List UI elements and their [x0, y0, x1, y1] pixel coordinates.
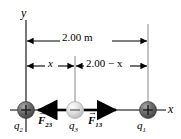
vector-arrow-icon-f23: →	[38, 108, 47, 117]
charge-label-q1-subscript: 1	[143, 126, 146, 133]
y-axis-label: y	[21, 7, 26, 19]
charge-sphere-q1	[140, 102, 157, 119]
force-label-f23: →F23	[38, 115, 52, 129]
charge-sphere-q2	[18, 102, 35, 119]
dimension-right-segment-label: 2.00 − x	[86, 58, 122, 69]
dimension-left-segment-label: x	[48, 58, 53, 69]
x-axis-label: x	[168, 103, 173, 115]
force-label-f13-subscript: 13	[95, 121, 102, 128]
charge-label-q2: q2	[14, 120, 23, 134]
charge-label-q1: q1	[137, 120, 146, 134]
charge-sphere-q3	[67, 102, 84, 119]
force-label-f23-subscript: 23	[45, 121, 52, 128]
dimension-total-label: 2.00 m	[62, 32, 93, 43]
physics-diagram: y x 2.00 m x 2.00 − x q2 q3 q1 →F23 →F13	[0, 0, 181, 139]
charge-label-q2-subscript: 2	[20, 126, 23, 133]
vector-arrow-icon-f13: →	[88, 108, 97, 117]
charge-label-q3-subscript: 3	[75, 126, 78, 133]
force-label-f13: →F13	[88, 115, 102, 129]
charge-label-q3: q3	[69, 120, 78, 134]
